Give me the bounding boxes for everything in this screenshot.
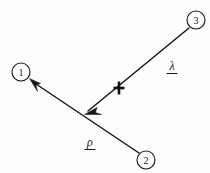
node-3[interactable]: 3 [187,11,205,29]
cross-mark [114,82,125,95]
node-2-circle [137,151,155,169]
node-3-circle [187,11,205,29]
node-1-circle [12,63,30,81]
vector-rho-label: ρ [86,135,93,149]
vector-rho-label-group: ρ [85,135,96,150]
node-1[interactable]: 1 [12,63,30,81]
node-2[interactable]: 2 [137,151,155,169]
vector-rho-line [33,82,139,153]
vector-rho [30,79,140,154]
vector-lambda-arrowhead [85,108,102,115]
diagram-canvas: 1 2 3 λ ρ [0,0,210,173]
vector-lambda-label: λ [168,59,174,73]
vector-lambda-label-group: λ [167,59,178,74]
vector-diagram-figure: 1 2 3 λ ρ [0,0,210,173]
vector-rho-arrowhead [30,79,41,92]
